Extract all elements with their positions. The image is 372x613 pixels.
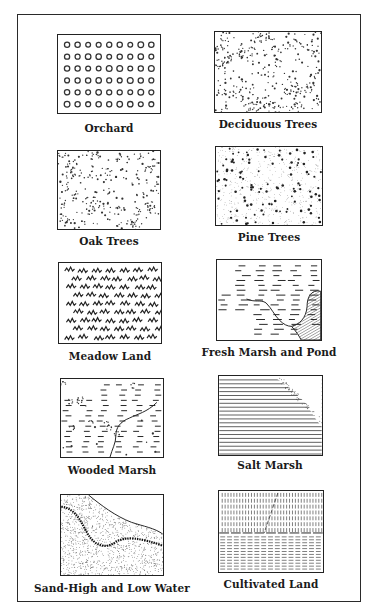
salt-marsh-swatch [218, 375, 323, 456]
cultivated-land-swatch [218, 490, 324, 573]
deciduous-trees-pattern-icon [215, 32, 321, 112]
pine-trees-pattern-icon [216, 147, 322, 225]
pine-trees-label: Pine Trees [189, 231, 349, 243]
wooded-marsh-swatch [60, 378, 164, 458]
cultivated-land-pattern-icon [219, 491, 323, 572]
oak-trees-swatch [57, 150, 161, 230]
cultivated-land-label: Cultivated Land [191, 578, 351, 590]
fresh-marsh-and-pond-swatch [216, 259, 322, 341]
orchard-swatch [57, 34, 161, 114]
fresh-marsh-and-pond-pattern-icon [217, 260, 321, 340]
orchard-label: Orchard [29, 122, 189, 134]
meadow-land-label: Meadow Land [30, 350, 190, 362]
orchard-pattern-icon [58, 35, 160, 113]
sand-high-and-low-water-pattern-icon [61, 495, 163, 575]
meadow-land-swatch [58, 262, 162, 344]
deciduous-trees-swatch [214, 31, 322, 113]
wooded-marsh-pattern-icon [61, 379, 163, 457]
sand-high-and-low-water-swatch [60, 494, 164, 576]
oak-trees-label: Oak Trees [29, 235, 189, 247]
salt-marsh-label: Salt Marsh [190, 459, 350, 471]
meadow-land-pattern-icon [59, 263, 161, 343]
salt-marsh-pattern-icon [219, 376, 322, 455]
wooded-marsh-label: Wooded Marsh [32, 464, 192, 476]
oak-trees-pattern-icon [58, 151, 160, 229]
pine-trees-swatch [215, 146, 323, 226]
sand-high-and-low-water-label: Sand-High and Low Water [32, 582, 192, 594]
fresh-marsh-and-pond-label: Fresh Marsh and Pond [189, 346, 349, 358]
deciduous-trees-label: Deciduous Trees [188, 118, 348, 130]
